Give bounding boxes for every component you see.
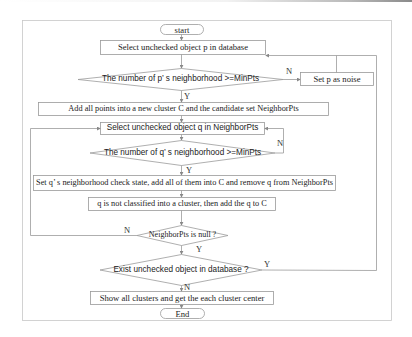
edge-label-null-no: N bbox=[124, 226, 130, 235]
edge-label-exist-no: N bbox=[184, 283, 190, 292]
show-label: Show all clusters and get the each clust… bbox=[90, 294, 274, 303]
start-label: start bbox=[160, 26, 204, 35]
add-q-label: q is not classified into a cluster, then… bbox=[88, 200, 276, 208]
select-q-label: Select unchecked object q in NeighborPts bbox=[100, 124, 265, 132]
edge-label-check-p-yes: Y bbox=[184, 92, 190, 101]
edge-label-check-p-no: N bbox=[286, 67, 292, 76]
add-points-label: Add all points into a new cluster C and … bbox=[38, 105, 329, 113]
set-q-label: Set q’ s neighborhood check state, add a… bbox=[33, 179, 336, 187]
edge-label-exist-yes: Y bbox=[264, 260, 270, 269]
edge-label-check-q-no: N bbox=[277, 139, 283, 148]
noise-label: Set p as noise bbox=[300, 75, 374, 84]
check-p-label: The number of p’ s neighborhood >=MinPts bbox=[78, 75, 283, 83]
edge-label-check-q-yes: Y bbox=[186, 166, 192, 175]
null-check-label: NeighborPts is null ? bbox=[137, 231, 228, 239]
end-label: End bbox=[160, 310, 205, 319]
select-p-label: Select unchecked object p in database bbox=[100, 43, 266, 52]
check-q-label: The number of q’ s neighborhood >=MinPts bbox=[90, 149, 275, 157]
exist-check-label: Exist unchecked object in database ? bbox=[100, 266, 262, 274]
edge-label-null-yes: Y bbox=[196, 245, 202, 254]
